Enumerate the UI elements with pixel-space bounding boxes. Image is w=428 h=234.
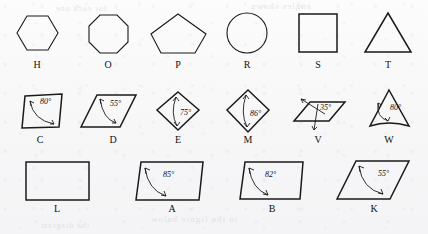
- arrowhead-start-M: [243, 95, 249, 99]
- parallelogram-shape-A: [136, 162, 203, 200]
- circle-shape: [227, 13, 267, 53]
- arrowhead-end-A: [161, 191, 166, 196]
- shape-label-A: A: [168, 203, 176, 214]
- rectangle-shape-L: [26, 162, 89, 200]
- arrowhead-start-B: [249, 168, 254, 174]
- shape-group-O: O: [89, 15, 128, 70]
- angle-label-V: 35°: [319, 103, 332, 112]
- arrowhead-end-E: [174, 122, 180, 126]
- shape-group-M: 86° M: [227, 90, 269, 145]
- shape-label-T: T: [385, 59, 391, 70]
- arrowhead-start-A: [145, 168, 150, 174]
- parallelogram-shape-B: [240, 162, 303, 199]
- shape-label-C: C: [37, 134, 44, 145]
- figure-sheet: in the figure below the diagram angles s…: [0, 0, 428, 234]
- shape-group-W: 80° W: [370, 90, 409, 145]
- angle-arc-E: [173, 97, 177, 126]
- shape-group-D: 55° D: [81, 95, 136, 145]
- shape-group-C: 80° C: [22, 94, 62, 145]
- shape-group-P: P: [151, 14, 206, 70]
- arrowhead-start-E: [173, 97, 179, 101]
- angle-arc-W: [378, 103, 388, 121]
- square-shape: [299, 14, 337, 52]
- angle-label-D: 55°: [110, 99, 122, 108]
- shape-label-D: D: [109, 134, 116, 145]
- shape-label-E: E: [175, 134, 181, 145]
- shape-label-L: L: [54, 203, 60, 214]
- angle-label-W: 80°: [390, 103, 402, 112]
- angle-arc-M: [243, 95, 247, 127]
- shapes-canvas: H O P R S T: [0, 0, 428, 234]
- angle-label-E: 75°: [180, 108, 192, 117]
- shape-group-S: S: [299, 14, 337, 70]
- shape-label-V: V: [314, 134, 322, 145]
- triangle-shape: [365, 13, 411, 52]
- shape-label-W: W: [384, 134, 394, 145]
- arrowhead-end-M: [244, 123, 250, 127]
- shape-group-T: T: [365, 13, 411, 70]
- angle-label-A: 85°: [163, 170, 175, 179]
- hexagon-shape: [17, 16, 58, 50]
- angle-label-M: 86°: [250, 109, 262, 118]
- arrowhead-start-K: [359, 166, 364, 172]
- rhombus-shape-D: [81, 95, 136, 127]
- arrowhead-start-D: [100, 99, 104, 104]
- shape-group-V: 35° V: [294, 99, 345, 145]
- shape-group-K: 55° K: [337, 161, 409, 214]
- shape-group-A: 85° A: [136, 162, 203, 214]
- arrowhead-start-C: [30, 101, 34, 106]
- shape-label-K: K: [370, 203, 378, 214]
- shape-group-L: L: [26, 162, 89, 214]
- angle-label-B: 82°: [265, 170, 277, 179]
- shape-group-R: R: [227, 13, 267, 70]
- shape-group-E: 75° E: [157, 92, 199, 145]
- shape-label-P: P: [175, 59, 181, 70]
- shape-label-O: O: [104, 59, 111, 70]
- angle-label-K: 55°: [378, 169, 390, 178]
- shape-label-B: B: [269, 203, 276, 214]
- shape-label-M: M: [244, 134, 253, 145]
- shape-group-B: 82° B: [240, 162, 303, 214]
- arrowhead-end-K: [378, 189, 383, 194]
- shape-group-H: H: [17, 16, 58, 70]
- octagon-shape: [89, 15, 128, 53]
- parallelogram-shape-K: [337, 161, 409, 199]
- pentagon-shape: [151, 14, 206, 53]
- shape-label-H: H: [33, 59, 40, 70]
- shape-label-S: S: [315, 59, 321, 70]
- angle-label-C: 80°: [40, 97, 52, 106]
- shape-label-R: R: [244, 59, 251, 70]
